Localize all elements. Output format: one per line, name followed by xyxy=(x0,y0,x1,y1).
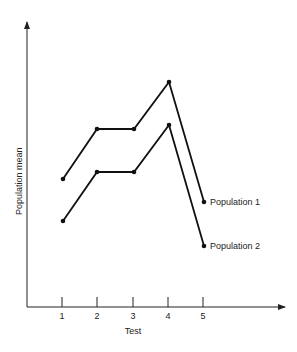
x-tick-label-5: 5 xyxy=(200,311,205,321)
series-population-2-points xyxy=(61,123,207,249)
series-label-population-2: Population 2 xyxy=(210,241,260,251)
y-axis-label: Population mean xyxy=(14,147,24,215)
x-ticks xyxy=(62,297,203,307)
series-population-1-points xyxy=(61,80,207,205)
x-axis-label: Test xyxy=(125,326,142,336)
x-tick-label-1: 1 xyxy=(59,311,64,321)
series-label-population-1: Population 1 xyxy=(210,197,260,207)
x-tick-label-2: 2 xyxy=(94,311,99,321)
chart-canvas xyxy=(0,0,297,352)
series-population-2 xyxy=(63,125,204,246)
x-tick-label-4: 4 xyxy=(165,311,170,321)
x-tick-label-3: 3 xyxy=(130,311,135,321)
series-population-1 xyxy=(63,82,204,202)
